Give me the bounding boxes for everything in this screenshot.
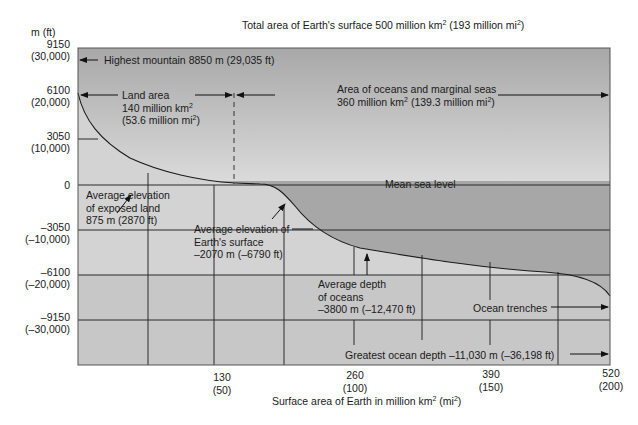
- y-unit-label: m (ft): [31, 26, 56, 38]
- avg-ocean-depth-label: Average depth of oceans –3800 m (–12,470…: [318, 278, 415, 316]
- y-tick-0: 0: [4, 179, 70, 191]
- y-tick-neg9150: –9150(–30,000): [4, 311, 70, 335]
- y-tick-6100: 6100(20,000): [4, 84, 70, 108]
- y-tick-9150: 9150(30,000): [4, 38, 70, 62]
- y-tick-3050: 3050(10,000): [4, 130, 70, 154]
- chart-title: Total area of Earth's surface 500 millio…: [242, 19, 524, 31]
- x-tick-130: 130(50): [197, 371, 247, 397]
- x-tick-390: 390(150): [466, 368, 516, 394]
- land-area-label: Land area 140 million km2 (53.6 million …: [122, 89, 200, 127]
- ocean-area-label: Area of oceans and marginal seas 360 mil…: [337, 83, 496, 108]
- highest-mountain-label: Highest mountain 8850 m (29,035 ft): [104, 54, 274, 67]
- ocean-trenches-label: Ocean trenches: [473, 302, 547, 315]
- y-tick-neg6100: –6100(–20,000): [4, 266, 70, 290]
- mean-sea-level-label: Mean sea level: [385, 178, 456, 191]
- avg-surface-elevation-label: Average elevation of Earth's surface –20…: [194, 223, 290, 261]
- x-tick-520: 520(200): [586, 367, 636, 393]
- x-axis-label: Surface area of Earth in million km2 (mi…: [272, 395, 461, 407]
- avg-land-elevation-label: Average elevation of exposed land 875 m …: [86, 189, 170, 227]
- y-tick-neg3050: –3050(–10,000): [4, 221, 70, 245]
- greatest-depth-label: Greatest ocean depth –11,030 m (–36,198 …: [345, 349, 554, 362]
- x-tick-260: 260(100): [330, 369, 380, 395]
